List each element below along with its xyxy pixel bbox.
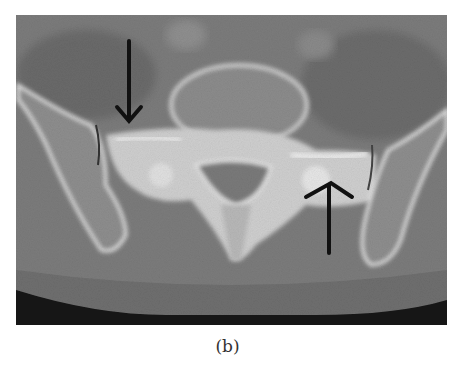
- ct-scan-image: [16, 15, 447, 325]
- figure-caption: (b): [0, 336, 455, 356]
